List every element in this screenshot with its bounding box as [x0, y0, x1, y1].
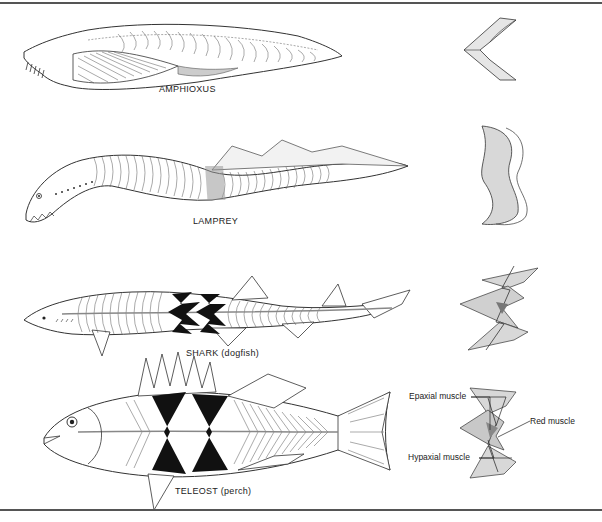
red-muscle-label: Red muscle	[530, 416, 575, 426]
bottom-rule	[0, 509, 602, 511]
annotation-leaders	[0, 0, 602, 522]
hypaxial-muscle-label: Hypaxial muscle	[408, 452, 470, 462]
epaxial-muscle-label: Epaxial muscle	[409, 391, 466, 401]
